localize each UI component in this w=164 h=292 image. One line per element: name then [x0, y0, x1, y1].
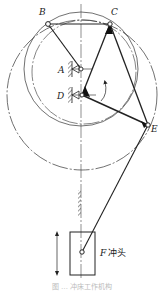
pin-A	[79, 67, 83, 71]
label-F: F	[99, 248, 107, 258]
figure-caption: 图 … 冲床工作机构	[52, 282, 112, 291]
pin-F	[80, 250, 84, 254]
label-C: C	[111, 7, 118, 17]
pin-B	[46, 22, 51, 27]
slider-guide	[78, 190, 81, 216]
label-E: E	[150, 124, 158, 134]
rotation-arrow-icon	[101, 82, 106, 101]
label-B: B	[38, 7, 46, 17]
pin-D	[80, 93, 84, 97]
reciprocating-arrow-icon	[55, 231, 59, 276]
label-punch-head: 冲头	[108, 247, 126, 258]
link-EF	[82, 125, 148, 252]
pin-C	[108, 22, 112, 26]
link-BA	[48, 24, 81, 69]
label-A: A	[57, 65, 65, 75]
circle-trajectory-C	[32, 20, 136, 124]
pin-E	[146, 123, 150, 127]
label-D: D	[56, 91, 64, 101]
mechanism-diagram: B C A D E F 冲头 图 … 冲床工作机构	[0, 0, 164, 292]
